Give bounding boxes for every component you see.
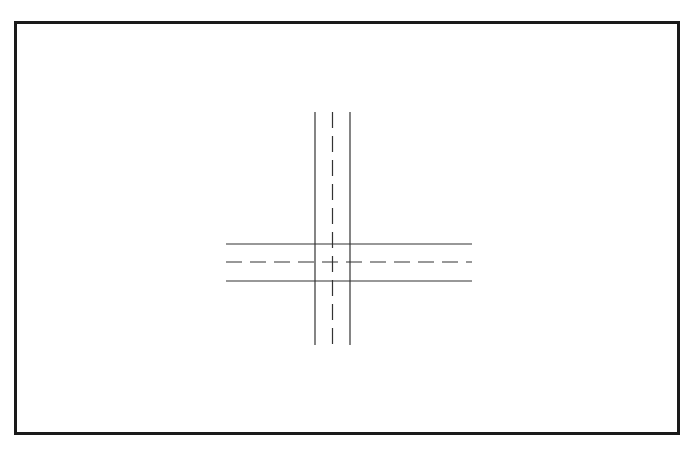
intersection-diagram [0, 0, 694, 450]
drawing-canvas [0, 0, 694, 450]
horizontal-road [226, 244, 472, 281]
vertical-road [315, 112, 350, 345]
